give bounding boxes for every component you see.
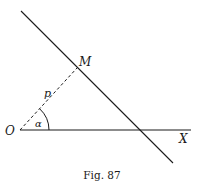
label-p: p <box>44 87 51 100</box>
label-x: X <box>178 132 188 146</box>
figure-caption: Fig. 87 <box>83 169 120 181</box>
label-o: O <box>5 124 15 138</box>
geometry-figure: M p α O X Fig. 87 <box>0 0 203 189</box>
label-alpha: α <box>35 118 42 129</box>
label-m: M <box>78 55 92 69</box>
